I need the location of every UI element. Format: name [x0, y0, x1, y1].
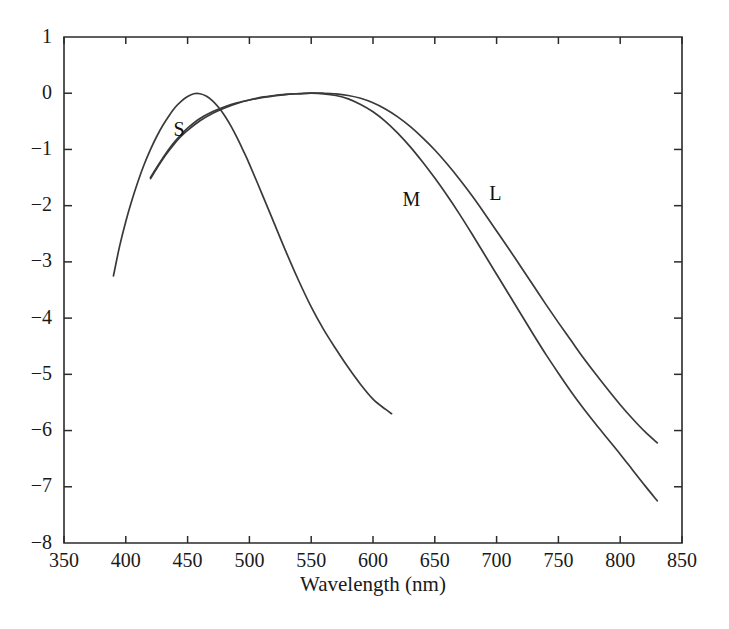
x-tick-label: 750 — [543, 549, 573, 571]
x-tick-label: 500 — [234, 549, 264, 571]
x-tick-label: 400 — [111, 549, 141, 571]
plot-frame — [64, 37, 682, 543]
curve-label-M: M — [402, 188, 420, 210]
y-tick-label: 0 — [42, 81, 52, 103]
x-tick-label: 350 — [49, 549, 79, 571]
axis-frame — [64, 37, 682, 543]
x-tick-label: 800 — [605, 549, 635, 571]
y-tick-label: −5 — [31, 362, 52, 384]
y-tick-label: −8 — [31, 531, 52, 553]
data-curves — [113, 93, 657, 501]
y-tick-label: −7 — [31, 474, 52, 496]
y-tick-label: −3 — [31, 249, 52, 271]
x-tick-label: 650 — [420, 549, 450, 571]
curve-S — [113, 93, 391, 413]
curve-annotations: SML — [173, 118, 501, 210]
y-tick-label: −2 — [31, 193, 52, 215]
cone-sensitivity-chart: 350400450500550600650700750800850 10−1−2… — [0, 0, 729, 629]
y-axis-tick-labels: 10−1−2−3−4−5−6−7−8 — [31, 25, 52, 553]
x-tick-label: 450 — [173, 549, 203, 571]
x-tick-label: 700 — [482, 549, 512, 571]
x-tick-label: 550 — [296, 549, 326, 571]
x-axis-title: Wavelength (nm) — [300, 572, 446, 596]
curve-label-L: L — [489, 182, 501, 204]
curve-label-S: S — [173, 118, 184, 140]
figure-container: 350400450500550600650700750800850 10−1−2… — [0, 0, 729, 629]
y-tick-label: −4 — [31, 306, 52, 328]
x-axis-ticks — [64, 37, 682, 543]
y-tick-label: −1 — [31, 137, 52, 159]
x-tick-label: 850 — [667, 549, 697, 571]
y-tick-label: −6 — [31, 418, 52, 440]
y-axis-ticks — [64, 93, 682, 487]
curve-M — [151, 93, 658, 501]
curve-L — [151, 93, 658, 443]
y-tick-label: 1 — [42, 25, 52, 47]
x-axis-tick-labels: 350400450500550600650700750800850 — [49, 549, 697, 571]
x-tick-label: 600 — [358, 549, 388, 571]
